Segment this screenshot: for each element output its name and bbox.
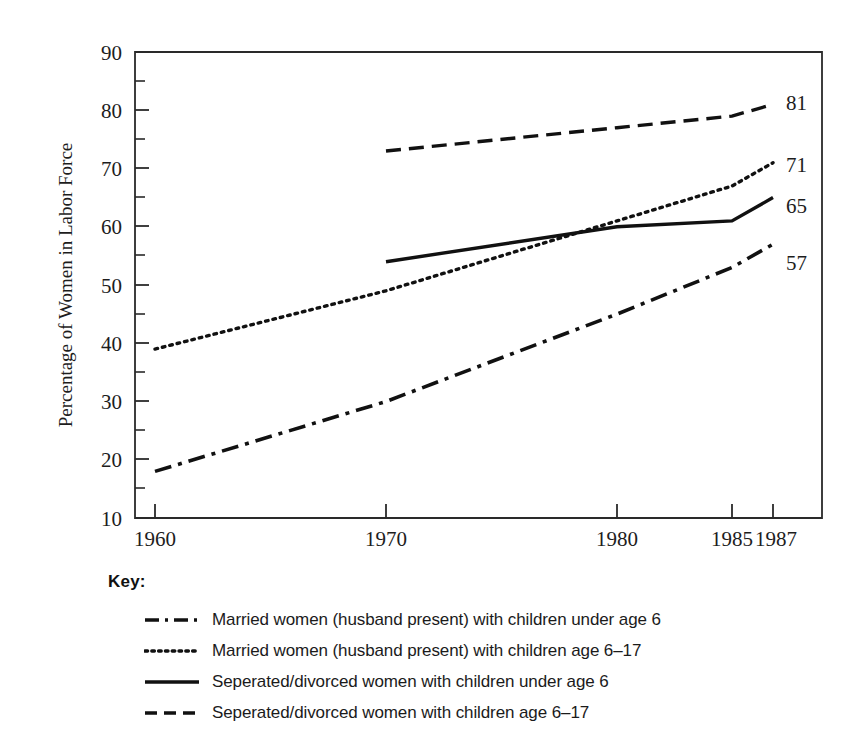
xtick-label-1970: 1970 (365, 527, 407, 551)
ytick-label-60: 60 (101, 215, 122, 239)
legend-item-separated-under-6: Seperated/divorced women with children u… (144, 666, 808, 697)
legend-item-married-6-17: Married women (husband present) with chi… (144, 635, 808, 666)
dashed-line-icon (144, 706, 200, 720)
xtick-label-1985: 1985 (711, 527, 753, 551)
chart-legend: Key: Married women (husband present) wit… (108, 572, 808, 728)
xtick-label-1987: 1987 (755, 527, 797, 551)
legend-items: Married women (husband present) with chi… (144, 604, 808, 728)
solid-line-icon (144, 675, 200, 689)
x-axis-tick-labels: 1960 1970 1980 1985 1987 (134, 527, 797, 551)
series-married-6-17-line (155, 163, 773, 349)
legend-label-married-6-17: Married women (husband present) with chi… (212, 641, 641, 661)
legend-label-separated-under-6: Seperated/divorced women with children u… (212, 672, 609, 692)
xtick-label-1980: 1980 (596, 527, 638, 551)
series-end-labels: 81 71 65 57 (786, 91, 807, 275)
ytick-label-70: 70 (101, 157, 122, 181)
ytick-label-10: 10 (101, 507, 122, 531)
series-separated-6-17-line (386, 104, 773, 151)
ytick-label-20: 20 (101, 448, 122, 472)
end-label-57: 57 (786, 251, 807, 275)
ytick-label-50: 50 (101, 274, 122, 298)
ytick-label-80: 80 (101, 99, 122, 123)
dotted-line-icon (144, 644, 200, 658)
series-separated-under-6-line (386, 198, 773, 262)
series-married-under-6-line (155, 244, 773, 471)
chart-figure: 90 80 70 60 50 40 30 20 10 Percentage of… (0, 0, 857, 748)
ytick-label-90: 90 (101, 41, 122, 65)
ytick-label-40: 40 (101, 332, 122, 356)
legend-item-married-under-6: Married women (husband present) with chi… (144, 604, 808, 635)
end-label-81: 81 (786, 91, 807, 115)
series-group (155, 104, 773, 471)
legend-label-separated-6-17: Seperated/divorced women with children a… (212, 703, 589, 723)
y-axis-title: Percentage of Women in Labor Force (55, 143, 76, 428)
y-axis-tick-labels: 90 80 70 60 50 40 30 20 10 (101, 41, 122, 531)
end-label-65: 65 (786, 194, 807, 218)
y-axis-ticks (135, 52, 149, 518)
legend-label-married-under-6: Married women (husband present) with chi… (212, 610, 661, 630)
legend-item-separated-6-17: Seperated/divorced women with children a… (144, 697, 808, 728)
xtick-label-1960: 1960 (134, 527, 176, 551)
ytick-label-30: 30 (101, 390, 122, 414)
legend-title: Key: (108, 572, 808, 592)
end-label-71: 71 (786, 153, 807, 177)
x-axis-ticks (155, 504, 773, 518)
dash-dot-line-icon (144, 613, 200, 627)
